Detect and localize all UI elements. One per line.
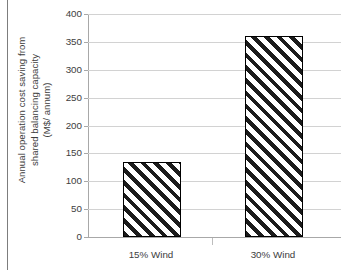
y-tick-label-wrap-50: 50	[0, 204, 349, 214]
y-tick-label-wrap-300: 300	[0, 65, 349, 75]
y-tick-label-250: 250	[46, 93, 82, 103]
bar-15-wind	[123, 162, 181, 237]
x-tick-label-1: 15% Wind	[101, 249, 201, 261]
x-axis-separator-1	[212, 238, 213, 245]
y-tick-label-400: 400	[46, 9, 82, 19]
y-tick-label-wrap-0: 0	[0, 232, 349, 242]
y-tick-label-wrap-350: 350	[0, 37, 349, 47]
x-tick-label-2: 30% Wind	[223, 249, 323, 261]
y-tick-label-wrap-200: 200	[0, 121, 349, 131]
y-tick-label-0: 0	[46, 232, 82, 242]
bar-chart-figure: Annual operation cost saving from shared…	[0, 0, 349, 270]
y-tick-label-100: 100	[46, 176, 82, 186]
y-tick-label-300: 300	[46, 65, 82, 75]
y-tick-label-wrap-100: 100	[0, 176, 349, 186]
y-tick-label-200: 200	[46, 121, 82, 131]
y-tick-label-350: 350	[46, 37, 82, 47]
y-axis-title-line-1: Annual operation cost saving from	[16, 37, 29, 184]
y-tick-label-wrap-150: 150	[0, 148, 349, 158]
y-tick-label-wrap-400: 400	[0, 9, 349, 19]
y-tick-label-150: 150	[46, 148, 82, 158]
y-tick-label-50: 50	[46, 204, 82, 214]
y-tick-label-wrap-250: 250	[0, 93, 349, 103]
